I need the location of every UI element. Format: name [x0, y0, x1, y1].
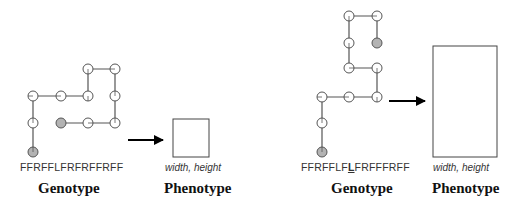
genotype-suffix: FRFFFRFF	[355, 161, 410, 173]
genotype-path-right	[317, 11, 382, 157]
phenotype-label-right: width, height	[433, 162, 489, 173]
phenotype-label-left: width, height	[165, 162, 221, 173]
path-line	[33, 69, 115, 152]
genotype-string-left: FFRFFLFRFRFFRFF	[20, 161, 123, 173]
end-node	[56, 118, 66, 128]
path-line	[322, 16, 377, 152]
path-nodes	[28, 64, 120, 157]
genotype-caption-right: Genotype	[331, 180, 393, 197]
genotype-highlight: L	[348, 161, 355, 173]
genotype-prefix: FFRFFLFRFRFFRFF	[20, 161, 123, 173]
diagram-canvas	[0, 0, 514, 207]
end-node	[372, 38, 382, 48]
genotype-caption-left: Genotype	[38, 180, 100, 197]
phenotype-box-left	[173, 119, 209, 157]
phenotype-caption-right: Phenotype	[432, 180, 500, 197]
phenotype-box-right	[433, 46, 497, 157]
genotype-path-left	[28, 64, 120, 157]
genotype-prefix: FFRFFLF	[301, 161, 348, 173]
genotype-string-right: FFRFFLFLFRFFFRFF	[301, 161, 410, 173]
phenotype-caption-left: Phenotype	[164, 180, 232, 197]
